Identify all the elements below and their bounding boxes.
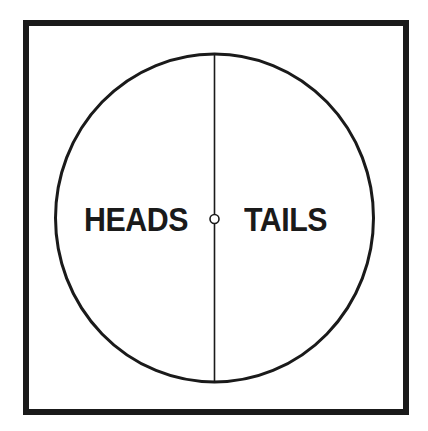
diagram-canvas — [0, 0, 428, 431]
small-center-circle — [210, 215, 219, 224]
tails-label: TAILS — [244, 203, 327, 236]
heads-label: HEADS — [84, 203, 188, 236]
